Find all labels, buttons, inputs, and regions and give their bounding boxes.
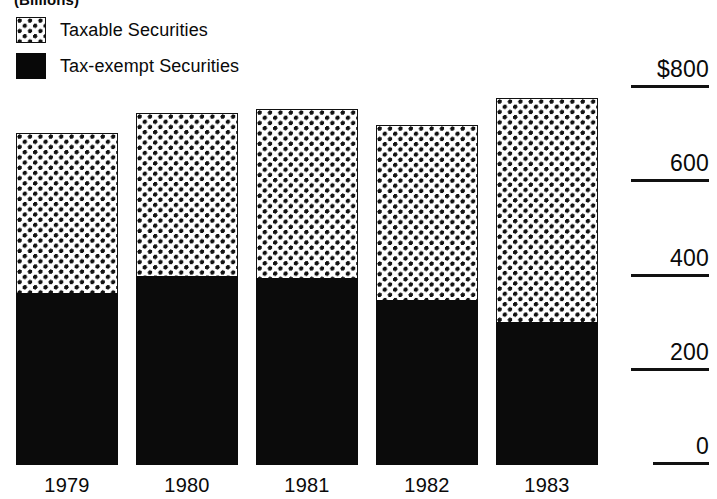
bar-segment-tax-exempt <box>256 278 358 465</box>
bar-1983: 1983 <box>496 98 598 465</box>
bar-segment-taxable <box>16 133 118 293</box>
bar-1980: 1980 <box>136 113 238 465</box>
stacked-bar-chart: (Billions) Taxable Securities Tax-exempt… <box>0 0 717 499</box>
x-axis-label-1980: 1980 <box>136 474 238 497</box>
y-tick-line <box>631 274 709 277</box>
bar-segment-taxable <box>256 109 358 278</box>
y-axis: $800 600 400 200 0 <box>627 0 717 499</box>
y-tick-400: 400 <box>631 243 709 277</box>
y-tick-0: 0 <box>653 431 709 465</box>
y-tick-label-800: $800 <box>657 56 709 83</box>
y-tick-600: 600 <box>631 148 709 182</box>
x-axis-label-1981: 1981 <box>256 474 358 497</box>
x-axis-label-1982: 1982 <box>376 474 478 497</box>
y-tick-label-400: 400 <box>670 245 709 272</box>
y-tick-label-600: 600 <box>670 150 709 177</box>
y-tick-line <box>631 85 709 88</box>
x-axis-label-1983: 1983 <box>496 474 598 497</box>
bar-1982: 1982 <box>376 125 478 465</box>
bar-segment-taxable <box>376 125 478 300</box>
y-tick-label-0: 0 <box>696 433 709 460</box>
bar-segment-taxable <box>496 98 598 322</box>
plot-area: 1979 1980 1981 1982 1983 <box>0 0 660 499</box>
bar-segment-taxable <box>136 113 238 276</box>
bar-segment-tax-exempt <box>16 293 118 465</box>
bar-1981: 1981 <box>256 109 358 465</box>
y-tick-200: 200 <box>631 337 709 371</box>
bar-segment-tax-exempt <box>376 300 478 465</box>
bar-1979: 1979 <box>16 133 118 465</box>
y-tick-line <box>653 462 709 465</box>
y-tick-line <box>631 179 709 182</box>
y-tick-line <box>631 368 709 371</box>
y-tick-label-200: 200 <box>670 339 709 366</box>
x-axis-label-1979: 1979 <box>16 474 118 497</box>
bar-segment-tax-exempt <box>496 322 598 465</box>
y-tick-800: $800 <box>631 54 709 88</box>
bar-segment-tax-exempt <box>136 276 238 465</box>
